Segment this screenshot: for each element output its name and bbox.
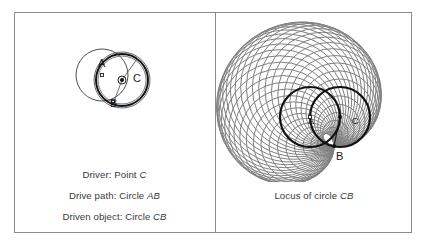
caption-drive-path-prefix: Drive path: Circle xyxy=(69,190,147,201)
label-B: B xyxy=(336,150,343,162)
locus-of-circle-cb-diagram: ABC xyxy=(216,12,412,182)
point-A-marker xyxy=(101,74,104,77)
driver-circles-diagram: ABC xyxy=(14,12,215,162)
caption-driver-italic: C xyxy=(139,169,146,180)
label-B: B xyxy=(110,97,117,109)
label-C: C xyxy=(133,72,141,84)
caption-driven-object: Driven object: Circle CB xyxy=(14,212,215,222)
point-C-marker xyxy=(120,78,124,82)
figure-root: ABC Driver: Point C Drive path: Circle A… xyxy=(0,0,427,246)
caption-driven-object-italic: CB xyxy=(153,211,167,222)
caption-driver-prefix: Driver: Point xyxy=(83,169,140,180)
caption-driver: Driver: Point C xyxy=(14,170,215,180)
caption-locus-prefix: Locus of circle xyxy=(274,190,340,201)
label-A: A xyxy=(98,57,106,69)
locus-envelope xyxy=(217,22,382,182)
label-A: A xyxy=(308,116,314,126)
point-B-marker xyxy=(332,144,336,148)
point-C-marker xyxy=(338,115,342,119)
caption-drive-path-italic: AB xyxy=(147,190,160,201)
caption-driven-object-prefix: Driven object: Circle xyxy=(62,211,153,222)
caption-locus: Locus of circle CB xyxy=(216,191,412,201)
locus-panel: ABC Locus of circle CB xyxy=(216,12,412,233)
caption-drive-path: Drive path: Circle AB xyxy=(14,191,215,201)
caption-locus-italic: CB xyxy=(340,190,354,201)
left-diagram-group: ABC xyxy=(76,49,150,109)
right-diagram-group: ABC xyxy=(217,22,382,182)
driver-definition-panel: ABC Driver: Point C Drive path: Circle A… xyxy=(14,12,215,233)
label-C: C xyxy=(352,116,359,126)
